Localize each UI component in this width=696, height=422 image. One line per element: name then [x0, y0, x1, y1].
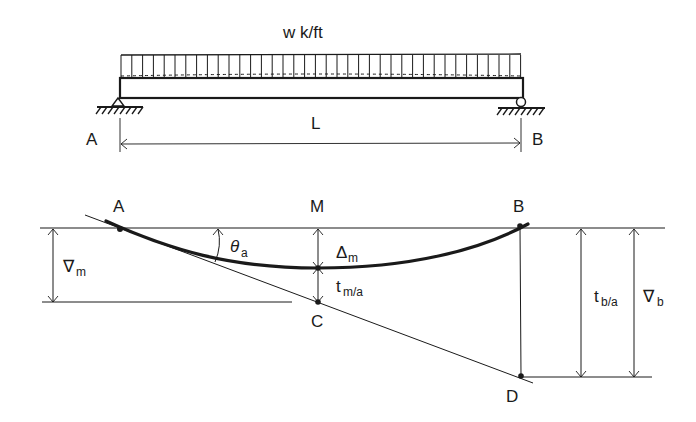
point-d-label: D: [506, 387, 518, 406]
pin-support-icon: [96, 98, 143, 114]
roller-support-icon: [497, 98, 545, 116]
svg-text:b/a: b/a: [601, 295, 618, 309]
svg-text:t: t: [336, 277, 341, 296]
delta-m-label: Δ m: [336, 243, 358, 265]
theta-a-label: θ a: [230, 237, 248, 260]
distributed-load: [121, 54, 521, 77]
nabla-m-label: ∇ m: [62, 257, 86, 279]
span-label: L: [311, 114, 320, 133]
svg-text:θ: θ: [230, 237, 240, 256]
support-b-label: B: [532, 130, 543, 149]
svg-text:∇: ∇: [642, 287, 655, 306]
load-label: w k/ft: [282, 23, 323, 42]
svg-text:∇: ∇: [62, 257, 75, 276]
loaded-beam: w k/ft A B L: [86, 23, 545, 152]
svg-text:m: m: [348, 251, 358, 265]
svg-text:m/a: m/a: [343, 285, 363, 299]
nabla-b-label: ∇ b: [642, 287, 664, 309]
beam-deflection-diagram: w k/ft A B L: [0, 0, 696, 422]
point-b-label: B: [513, 197, 524, 216]
support-a-label: A: [86, 130, 98, 149]
svg-text:b: b: [657, 295, 664, 309]
svg-text:Δ: Δ: [336, 243, 347, 262]
point-m-label: M: [310, 197, 324, 216]
beam-body: [120, 78, 523, 98]
svg-text:t: t: [594, 287, 599, 306]
deflection-construction: A M B C D θ a Δ m t m/a ∇ m t b/a ∇ b: [40, 197, 665, 406]
span-dimension: [120, 118, 521, 152]
svg-text:a: a: [241, 246, 248, 260]
point-a-label: A: [113, 197, 125, 216]
t-ma-label: t m/a: [336, 277, 363, 299]
t-ba-label: t b/a: [594, 287, 618, 309]
point-c-label: C: [311, 312, 323, 331]
svg-text:m: m: [76, 265, 86, 279]
